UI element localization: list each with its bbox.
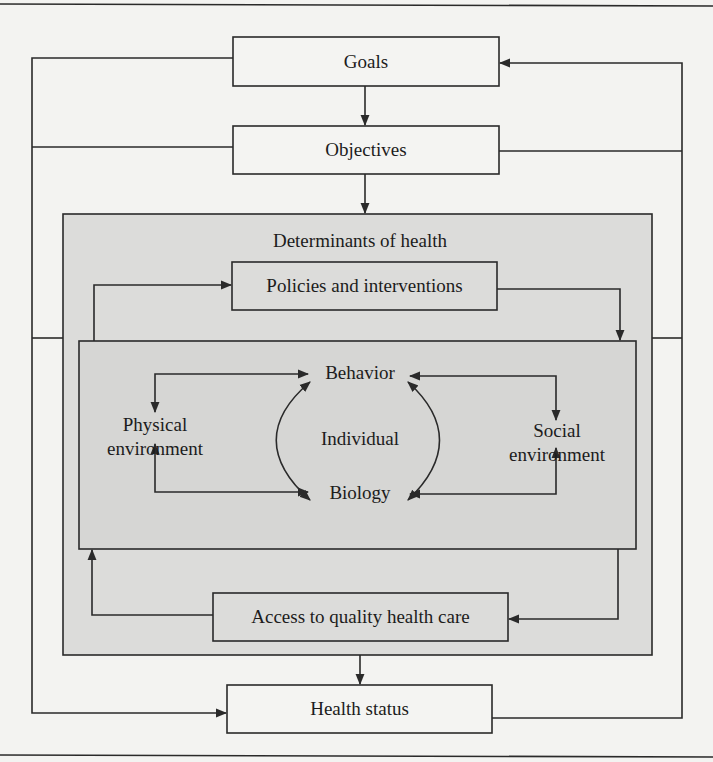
behavior-label: Behavior	[300, 362, 420, 384]
health-determinants-diagram: Goals Objectives Determinants of health …	[0, 0, 713, 762]
access-label: Access to quality health care	[213, 593, 508, 641]
objectives-label: Objectives	[233, 126, 499, 174]
individual-label: Individual	[300, 428, 420, 450]
goals-label: Goals	[233, 37, 499, 86]
top-rule	[0, 4, 713, 6]
physical-environment-label-line2: environment	[85, 438, 225, 460]
physical-environment-label-line1: Physical	[85, 414, 225, 436]
policies-label: Policies and interventions	[232, 262, 497, 310]
social-environment-label-line2: environment	[487, 444, 627, 466]
health-status-label: Health status	[227, 685, 492, 733]
bottom-rule	[0, 755, 713, 757]
determinants-title: Determinants of health	[160, 230, 560, 252]
social-environment-label-line1: Social	[487, 420, 627, 442]
biology-label: Biology	[300, 482, 420, 504]
